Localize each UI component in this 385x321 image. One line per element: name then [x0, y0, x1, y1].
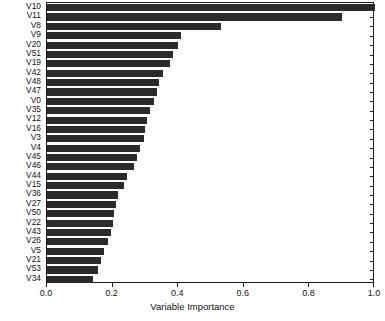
y-axis-tick: [370, 92, 373, 93]
bar: [47, 220, 113, 227]
bar-row: [47, 70, 163, 77]
y-axis-tick: [370, 186, 373, 187]
y-axis-tick: [370, 270, 373, 271]
bar: [47, 257, 101, 264]
y-axis-tick: [370, 26, 373, 27]
bar-row: [47, 276, 93, 283]
y-axis-tick: [370, 73, 373, 74]
bar-row: [47, 13, 342, 20]
bar-row: [47, 191, 118, 198]
bar-row: [47, 248, 104, 255]
x-axis-tick-label: 1.0: [368, 288, 381, 298]
y-axis-tick: [370, 214, 373, 215]
y-axis-tick: [370, 195, 373, 196]
y-axis-tick-label: V53: [26, 264, 41, 273]
y-axis-tick-label: V9: [31, 30, 41, 39]
bar-row: [47, 145, 140, 152]
x-axis-tick-label: 0.2: [105, 288, 118, 298]
x-axis-title: Variable Importance: [0, 301, 385, 312]
bar-row: [47, 4, 375, 11]
y-axis-tick: [370, 36, 373, 37]
bar-row: [47, 238, 108, 245]
bar-row: [47, 32, 181, 39]
y-axis-tick: [370, 223, 373, 224]
y-axis-tick: [370, 167, 373, 168]
y-axis-labels: V10V11V8V9V20V51V19V42V48V47V0V35V12V16V…: [0, 2, 44, 283]
bar-row: [47, 210, 114, 217]
y-axis-tick: [370, 176, 373, 177]
bar-row: [47, 220, 113, 227]
x-axis-tick: [308, 283, 309, 287]
y-axis-tick: [370, 55, 373, 56]
y-axis-tick: [370, 279, 373, 280]
x-axis-tick: [373, 283, 374, 287]
bar-row: [47, 126, 145, 133]
bar: [47, 173, 127, 180]
x-axis-tick-label: 0.8: [302, 288, 315, 298]
x-axis-tick-label: 0.0: [40, 288, 53, 298]
bar: [47, 276, 93, 283]
bar-row: [47, 182, 124, 189]
bar: [47, 266, 98, 273]
bar-row: [47, 98, 154, 105]
bar-row: [47, 163, 134, 170]
bar-row: [47, 173, 127, 180]
bar: [47, 182, 124, 189]
bar: [47, 191, 118, 198]
x-axis-tick: [112, 283, 113, 287]
bar-row: [47, 51, 173, 58]
x-axis-tick-label: 0.6: [237, 288, 250, 298]
bar-row: [47, 201, 116, 208]
bar: [47, 51, 173, 58]
bar-row: [47, 266, 98, 273]
bar: [47, 248, 104, 255]
y-axis-tick: [370, 111, 373, 112]
x-axis-tick: [243, 283, 244, 287]
y-axis-tick: [370, 251, 373, 252]
y-axis-tick-label: V50: [26, 208, 41, 217]
bar-row: [47, 23, 221, 30]
bar-row: [47, 229, 111, 236]
y-axis-tick: [370, 45, 373, 46]
bar: [47, 42, 178, 49]
y-axis-tick: [370, 139, 373, 140]
bar: [47, 70, 163, 77]
bar-row: [47, 154, 137, 161]
bar: [47, 32, 181, 39]
bar-row: [47, 135, 144, 142]
bar: [47, 23, 221, 30]
y-axis-tick-label: V3: [31, 133, 41, 142]
y-axis-tick: [370, 83, 373, 84]
bar-row: [47, 60, 170, 67]
bar: [47, 154, 137, 161]
bar: [47, 79, 159, 86]
bar: [47, 145, 140, 152]
bar: [47, 229, 111, 236]
y-axis-tick: [370, 8, 373, 9]
bar: [47, 210, 114, 217]
y-axis-tick-label: V19: [26, 58, 41, 67]
y-axis-tick: [370, 261, 373, 262]
y-axis-tick-label: V46: [26, 161, 41, 170]
bar: [47, 201, 116, 208]
bar-row: [47, 107, 150, 114]
y-axis-tick: [370, 232, 373, 233]
bar-row: [47, 117, 147, 124]
bar: [47, 107, 150, 114]
bar: [47, 163, 134, 170]
y-axis-tick: [370, 17, 373, 18]
x-axis-tick-label: 0.4: [171, 288, 184, 298]
bar-row: [47, 88, 157, 95]
y-axis-tick: [370, 101, 373, 102]
y-axis-tick-label: V34: [26, 274, 41, 283]
y-axis-tick: [370, 64, 373, 65]
bar: [47, 4, 375, 11]
bar: [47, 13, 342, 20]
bar: [47, 98, 154, 105]
x-axis-tick: [46, 283, 47, 287]
x-axis-tick: [177, 283, 178, 287]
bar: [47, 60, 170, 67]
y-axis-tick-label: V26: [26, 236, 41, 245]
variable-importance-chart: V10V11V8V9V20V51V19V42V48V47V0V35V12V16V…: [0, 0, 385, 321]
bar: [47, 135, 144, 142]
